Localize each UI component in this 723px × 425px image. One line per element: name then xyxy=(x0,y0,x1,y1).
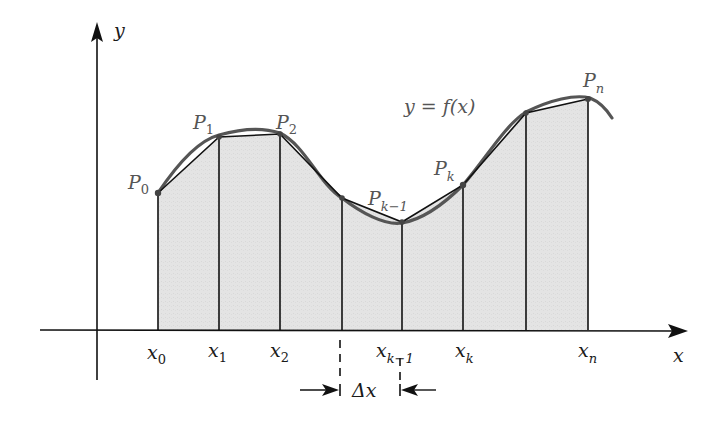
delta-x-indicator: Δx xyxy=(300,340,436,401)
x-tick-labels: x0 x1 x2 xk−1 xk xn xyxy=(147,339,597,367)
p0-label: P0 xyxy=(127,171,149,197)
xk-label: xk xyxy=(455,339,474,366)
pk-label: Pk xyxy=(433,157,455,184)
x-axis-label: x xyxy=(673,344,684,366)
x0-label: x0 xyxy=(147,341,166,367)
function-label: y = f(x) xyxy=(403,95,475,117)
xk-minus-1-label: xk−1 xyxy=(376,339,414,366)
x1-label: x1 xyxy=(208,339,227,365)
riemann-polygon-diagram: y x y = f(x) P0 P1 P2 Pk−1 Pk Pn x0 x1 x… xyxy=(0,0,723,425)
x2-label: x2 xyxy=(270,339,289,365)
delta-x-label: Δx xyxy=(351,379,377,401)
y-axis xyxy=(91,22,103,380)
p1-label: P1 xyxy=(192,111,214,137)
xn-label: xn xyxy=(578,339,597,366)
pn-label: Pn xyxy=(582,69,604,96)
y-axis-label: y xyxy=(113,19,125,41)
